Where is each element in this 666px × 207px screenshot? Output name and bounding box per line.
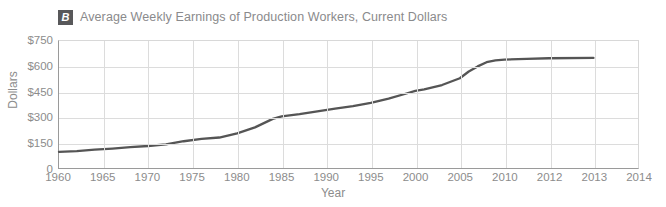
x-axis-tick-label: 1995 <box>358 171 384 183</box>
gridline-vertical <box>506 41 507 168</box>
page-title: Average Weekly Earnings of Production Wo… <box>80 10 447 24</box>
gridline-vertical <box>104 41 105 168</box>
gridline-vertical <box>193 41 194 168</box>
x-axis-tick-label: 1965 <box>90 171 116 183</box>
x-axis-tick-label: 2000 <box>403 171 429 183</box>
x-axis-tick-label: 1980 <box>224 171 250 183</box>
x-axis-tick-label: 1990 <box>313 171 339 183</box>
gridline-vertical <box>461 41 462 168</box>
chart-title-row: B Average Weekly Earnings of Production … <box>58 9 447 25</box>
gridline-vertical <box>148 41 149 168</box>
x-axis-tick-label: 2012 <box>537 171 563 183</box>
x-axis-tick-label: 2005 <box>447 171 473 183</box>
gridline-vertical <box>372 41 373 168</box>
y-axis-tick-label: $150 <box>7 137 53 149</box>
gridline-vertical <box>417 41 418 168</box>
plot-area <box>58 40 639 169</box>
gridline-vertical <box>595 41 596 168</box>
panel-badge-icon: B <box>58 10 73 25</box>
chart-figure: B Average Weekly Earnings of Production … <box>0 0 666 207</box>
x-axis-tick-label: 2013 <box>582 171 608 183</box>
x-axis-tick-label: 1960 <box>45 171 71 183</box>
gridline-vertical <box>551 41 552 168</box>
gridline-vertical <box>283 41 284 168</box>
x-axis-tick-label: 2014 <box>626 171 652 183</box>
gridline-vertical <box>327 41 328 168</box>
y-axis-tick-label: $750 <box>7 34 53 46</box>
x-axis-tick-label: 2010 <box>492 171 518 183</box>
x-axis-tick-label: 1975 <box>179 171 205 183</box>
x-axis-title: Year <box>0 186 666 200</box>
gridline-vertical <box>238 41 239 168</box>
x-axis-tick-labels: 1960196519701975198019851990199520002005… <box>58 171 639 185</box>
y-axis-title: Dollars <box>6 58 20 122</box>
x-axis-tick-label: 1985 <box>269 171 295 183</box>
x-axis-tick-label: 1970 <box>135 171 161 183</box>
